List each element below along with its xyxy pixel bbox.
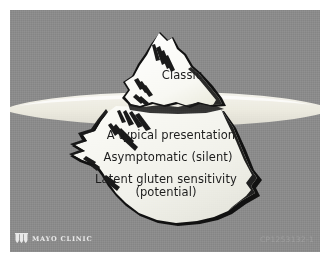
image-code-watermark: CP1253132-1 <box>260 235 314 244</box>
iceberg-below-water-group <box>69 106 262 226</box>
figure-root: Classic A typical presentation Asymptoma… <box>0 0 329 261</box>
mayo-clinic-shield-icon <box>15 233 28 245</box>
iceberg-illustration <box>10 10 320 252</box>
mayo-clinic-branding: MAYO CLINIC <box>15 233 92 245</box>
iceberg-above-water-group <box>122 32 226 114</box>
iceberg-figure-canvas: Classic A typical presentation Asymptoma… <box>10 10 320 252</box>
mayo-clinic-wordmark: MAYO CLINIC <box>32 235 92 243</box>
